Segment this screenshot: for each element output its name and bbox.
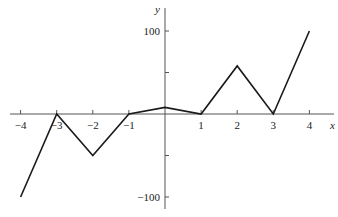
x-axis-label: x <box>329 119 335 131</box>
chart: −4−3−2−11234100−100 x y <box>0 0 338 217</box>
chart-svg: −4−3−2−11234100−100 x y <box>0 0 338 217</box>
x-tick-label: 4 <box>307 119 313 131</box>
x-tick-label: 3 <box>271 119 277 131</box>
x-tick-label: −1 <box>123 119 135 131</box>
y-tick-label: 100 <box>144 25 161 37</box>
y-tick-label: −100 <box>137 191 160 203</box>
x-tick-label: −4 <box>15 119 27 131</box>
x-tick-label: 1 <box>198 119 204 131</box>
x-tick-label: 2 <box>234 119 240 131</box>
x-tick-label: −2 <box>87 119 99 131</box>
y-axis-label: y <box>154 3 160 15</box>
